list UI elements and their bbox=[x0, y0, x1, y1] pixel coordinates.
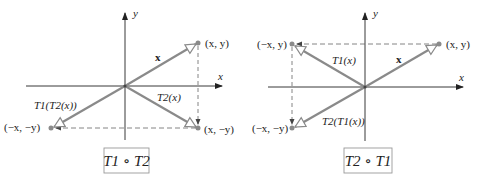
vector-x bbox=[365, 45, 437, 87]
vector-label-t2-x: T2(x) bbox=[157, 91, 181, 104]
caption-t2-compose-t1: T2 ∘ T1 bbox=[345, 153, 392, 169]
panel-t1-compose-t2: x y (x, y) (x, −y) (−x, −y) x T2(x) T1(T… bbox=[4, 7, 234, 173]
composition-diagram: x y (x, y) (x, −y) (−x, −y) x T2(x) T1(T… bbox=[0, 0, 478, 186]
y-axis-label: y bbox=[372, 7, 378, 19]
point-neg-x-y bbox=[290, 42, 295, 47]
point-label-x-y: (x, y) bbox=[205, 37, 229, 50]
point-label-neg-x-neg-y: (−x, −y) bbox=[252, 122, 289, 135]
x-axis-label: x bbox=[458, 71, 464, 83]
point-x-y bbox=[437, 42, 442, 47]
y-axis-label: y bbox=[132, 7, 138, 19]
vector-label-t2-t1-x: T2(T1(x)) bbox=[322, 115, 365, 128]
vector-t1-x bbox=[295, 46, 365, 87]
point-neg-x-neg-y bbox=[290, 126, 295, 131]
vector-label-x: x bbox=[396, 53, 402, 65]
vector-label-t1-x: T1(x) bbox=[332, 54, 356, 67]
vector-label-t1-t2-x: T1(T2(x)) bbox=[34, 99, 77, 112]
x-axis-label: x bbox=[217, 70, 223, 82]
point-label-x-neg-y: (x, −y) bbox=[204, 123, 234, 136]
vector-x bbox=[125, 44, 196, 86]
point-x-y bbox=[196, 41, 201, 46]
origin bbox=[363, 85, 366, 88]
point-neg-x-neg-y bbox=[49, 126, 54, 131]
caption-t1-compose-t2: T1 ∘ T2 bbox=[103, 153, 150, 169]
point-label-neg-x-neg-y: (−x, −y) bbox=[4, 121, 41, 134]
origin bbox=[123, 84, 126, 87]
panel-t2-compose-t1: x y (x, y) (−x, y) (−x, −y) T1(x) x T2(T… bbox=[252, 7, 470, 173]
point-x-neg-y bbox=[196, 126, 201, 131]
vector-label-x: x bbox=[155, 51, 161, 63]
point-label-x-y: (x, y) bbox=[446, 38, 470, 51]
point-label-neg-x-y: (−x, y) bbox=[257, 38, 287, 51]
